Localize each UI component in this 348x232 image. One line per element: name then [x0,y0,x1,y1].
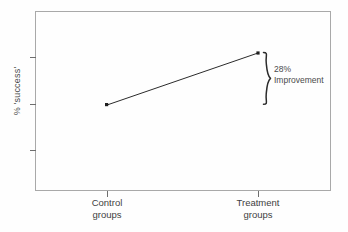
x-axis-category-treatment-line1: Treatment [237,197,280,208]
improvement-annotation-label: Improvement [274,75,324,86]
chart-screenshot: % 'success' Control groups Treatment gro… [0,0,348,232]
y-axis-tick-lower [30,150,36,151]
x-axis-category-treatment: Treatment groups [213,197,303,221]
y-axis-tick-middle [30,104,36,105]
improvement-annotation: 28% Improvement [274,64,324,86]
x-axis-category-treatment-line2: groups [213,209,303,221]
y-axis-tick-upper [30,57,36,58]
plot-frame [35,11,331,191]
x-axis-category-control-line1: Control [92,197,123,208]
improvement-annotation-value: 28% [274,64,324,75]
y-axis-label: % 'success' [12,51,22,131]
x-axis-category-control: Control groups [62,197,152,221]
x-axis-category-control-line2: groups [62,209,152,221]
